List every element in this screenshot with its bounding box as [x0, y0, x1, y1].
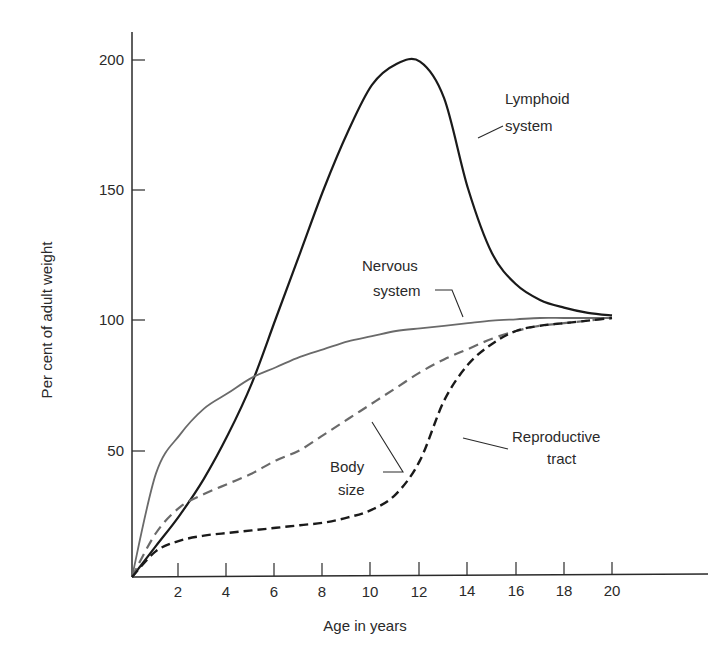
- annotation-lymphoid-line1: Lymphoid: [505, 90, 569, 107]
- y-tick-label: 100: [99, 311, 124, 328]
- annotation-lymphoid: Lymphoid system: [478, 90, 569, 138]
- x-tick-label: 2: [174, 583, 182, 600]
- annotation-body-line2: size: [338, 481, 365, 498]
- body-size-line: [132, 318, 612, 577]
- x-tick-label: 20: [604, 582, 621, 599]
- annotation-nervous-line1: Nervous: [362, 257, 418, 274]
- x-tick-label: 14: [459, 582, 476, 599]
- annotation-lymphoid-line2: system: [505, 117, 553, 134]
- x-tick-label: 18: [556, 582, 573, 599]
- y-tick-label: 200: [99, 51, 124, 68]
- annotation-repro-line2: tract: [547, 450, 577, 467]
- x-tick-label: 6: [270, 583, 278, 600]
- x-tick-label: 10: [362, 583, 379, 600]
- annotation-nervous: Nervous system: [362, 257, 463, 317]
- y-tick-label: 50: [107, 442, 124, 459]
- x-axis-title: Age in years: [323, 617, 406, 634]
- x-tick-label: 16: [508, 582, 525, 599]
- reproductive-tract-line: [132, 318, 612, 577]
- x-tick-label: 8: [318, 583, 326, 600]
- annotation-body-size: Body size: [330, 422, 403, 498]
- annotation-reproductive: Reproductive tract: [463, 428, 600, 467]
- annotation-nervous-line2: system: [373, 282, 421, 299]
- x-tick-label: 4: [222, 583, 230, 600]
- y-axis-title: Per cent of adult weight: [38, 241, 55, 399]
- y-ticks: 200 150 100 50: [99, 51, 145, 459]
- x-tick-label: 12: [411, 583, 428, 600]
- chart-canvas: 200 150 100 50 2 4 6 8 10 12 14 16 18 20…: [0, 0, 719, 649]
- nervous-system-line: [132, 318, 612, 577]
- annotation-body-line1: Body: [330, 458, 365, 475]
- series-layer: [132, 59, 612, 577]
- annotation-repro-line1: Reproductive: [512, 428, 600, 445]
- x-axis: [132, 574, 708, 577]
- x-ticks: 2 4 6 8 10 12 14 16 18 20: [174, 562, 621, 600]
- y-tick-label: 150: [99, 181, 124, 198]
